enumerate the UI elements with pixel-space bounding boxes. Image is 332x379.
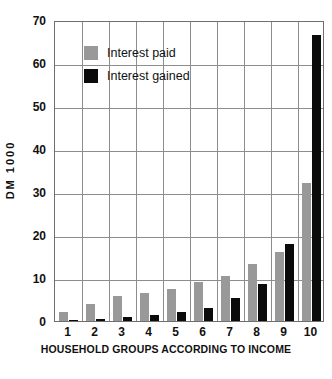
x-axis-title: HOUSEHOLD GROUPS ACCORDING TO INCOME bbox=[0, 343, 332, 355]
bar-group bbox=[217, 22, 244, 321]
bar-interest-paid bbox=[113, 296, 122, 321]
x-axis-tick-label: 5 bbox=[172, 325, 179, 339]
bar-interest-paid bbox=[140, 293, 149, 321]
x-axis-tick-label: 6 bbox=[199, 325, 206, 339]
legend-item: Interest paid bbox=[84, 43, 190, 63]
bar-interest-gained bbox=[285, 244, 294, 321]
bar-interest-paid bbox=[302, 183, 311, 321]
y-axis-tick-labels: 010203040506070 bbox=[18, 21, 50, 322]
bar-interest-paid bbox=[221, 276, 230, 321]
legend-label: Interest paid bbox=[107, 46, 176, 60]
x-axis-tick-labels: 12345678910 bbox=[54, 325, 324, 341]
bar-interest-gained bbox=[258, 284, 267, 321]
bar-interest-paid bbox=[167, 289, 176, 321]
x-axis-tick-label: 3 bbox=[118, 325, 125, 339]
x-axis-tick-label: 1 bbox=[64, 325, 71, 339]
bar-interest-gained bbox=[312, 35, 321, 321]
bar-interest-gained bbox=[204, 308, 213, 321]
x-axis-tick-label: 10 bbox=[304, 325, 317, 339]
y-axis-tick-label: 0 bbox=[39, 315, 46, 329]
bar-interest-gained bbox=[69, 320, 78, 321]
bar-interest-paid bbox=[248, 264, 257, 321]
bar-group bbox=[271, 22, 298, 321]
y-axis-tick-label: 50 bbox=[33, 100, 46, 114]
legend-item: Interest gained bbox=[84, 66, 190, 86]
y-axis-tick-label: 20 bbox=[33, 229, 46, 243]
bar-interest-paid bbox=[59, 312, 68, 321]
x-axis-tick-label: 4 bbox=[145, 325, 152, 339]
legend-swatch-gained bbox=[84, 69, 98, 83]
y-axis-tick-label: 40 bbox=[33, 143, 46, 157]
y-axis-tick-label: 10 bbox=[33, 272, 46, 286]
bar-group bbox=[244, 22, 271, 321]
bar-interest-gained bbox=[177, 312, 186, 321]
bar-interest-paid bbox=[86, 304, 95, 321]
y-axis-tick-label: 70 bbox=[33, 14, 46, 28]
bar-group bbox=[55, 22, 82, 321]
y-axis-title: DM 1000 bbox=[0, 0, 20, 340]
y-axis-title-text: DM 1000 bbox=[4, 141, 16, 200]
y-axis-tick-label: 60 bbox=[33, 57, 46, 71]
bar-group bbox=[298, 22, 324, 321]
bar-chart: DM 1000 010203040506070 Interest paidInt… bbox=[0, 0, 332, 379]
x-axis-tick-label: 9 bbox=[280, 325, 287, 339]
bar-interest-paid bbox=[194, 282, 203, 321]
bar-interest-gained bbox=[231, 298, 240, 321]
bar-group bbox=[190, 22, 217, 321]
x-axis-tick-label: 2 bbox=[91, 325, 98, 339]
x-axis-tick-label: 8 bbox=[253, 325, 260, 339]
bar-interest-gained bbox=[123, 317, 132, 321]
bar-interest-gained bbox=[96, 319, 105, 321]
chart-legend: Interest paidInterest gained bbox=[84, 43, 190, 89]
legend-label: Interest gained bbox=[107, 69, 190, 83]
y-axis-tick-label: 30 bbox=[33, 186, 46, 200]
bar-interest-gained bbox=[150, 315, 159, 321]
bar-interest-paid bbox=[275, 252, 284, 321]
legend-swatch-paid bbox=[84, 46, 98, 60]
x-axis-tick-label: 7 bbox=[226, 325, 233, 339]
